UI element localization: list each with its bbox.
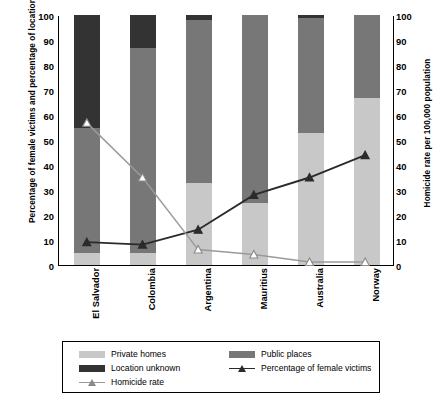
axis-tick-label: 100 (396, 11, 420, 22)
legend-row: Location unknown Percentage of female vi… (79, 361, 379, 375)
axis-tick-label: 90 (30, 36, 54, 47)
line-layer (59, 16, 393, 265)
axis-tick-label: 40 (396, 161, 420, 172)
data-point-marker[interactable] (361, 151, 369, 159)
axis-tick-label: 100 (30, 11, 54, 22)
axis-tick-label: 70 (30, 86, 54, 97)
chart-figure: Percentage of female victims and percent… (0, 0, 445, 411)
axis-tick-label: 40 (30, 161, 54, 172)
legend-swatch-public-places-icon (229, 351, 255, 358)
axis-tick-label: 0 (396, 261, 420, 272)
legend-label-female-victims: Percentage of female victims (261, 363, 371, 373)
axis-tick-label: 20 (396, 211, 420, 222)
chart-legend: Private homes Public places Location unk… (62, 341, 380, 393)
legend-label-location-unknown: Location unknown (111, 363, 180, 373)
axis-tick-label: 30 (396, 186, 420, 197)
data-line (87, 123, 365, 262)
legend-row: Private homes Public places (79, 347, 379, 361)
axis-tick-label: 90 (396, 36, 420, 47)
right-axis-ticks: 0102030405060708090100 (396, 16, 420, 266)
axis-tick-label: 80 (30, 61, 54, 72)
axis-tick-label: 60 (30, 111, 54, 122)
legend-label-private-homes: Private homes (111, 349, 166, 359)
x-axis-label: Argentina (203, 268, 214, 311)
axis-tick-label: 50 (396, 136, 420, 147)
data-line (87, 155, 365, 244)
plot-area (58, 16, 394, 266)
axis-tick-label: 30 (30, 186, 54, 197)
x-axis-category-labels: El SalvadorColombiaArgentinaMauritiusAus… (58, 268, 394, 332)
axis-tick-label: 20 (30, 211, 54, 222)
left-axis-ticks: 0102030405060708090100 (30, 16, 54, 266)
x-axis-label: El Salvador (91, 268, 102, 319)
axis-tick-label: 60 (396, 111, 420, 122)
x-axis-label: Norway (371, 268, 382, 302)
legend-swatch-homicide-rate-icon (79, 378, 105, 387)
axis-tick-label: 70 (396, 86, 420, 97)
legend-swatch-location-unknown-icon (79, 365, 105, 372)
axis-tick-label: 80 (396, 61, 420, 72)
legend-item-location-unknown: Location unknown (79, 361, 180, 375)
right-axis-title: Homicide rate per 100,000 population (423, 38, 433, 228)
x-axis-label: Australia (315, 268, 326, 308)
legend-label-public-places: Public places (261, 349, 312, 359)
x-axis-label: Mauritius (259, 268, 270, 309)
legend-swatch-private-homes-icon (79, 351, 105, 358)
legend-item-private-homes: Private homes (79, 347, 166, 361)
data-point-marker[interactable] (83, 119, 91, 127)
legend-row: Homicide rate (79, 375, 379, 389)
legend-item-female-victims: Percentage of female victims (229, 361, 371, 375)
legend-item-public-places: Public places (229, 347, 312, 361)
axis-tick-label: 50 (30, 136, 54, 147)
axis-tick-label: 10 (396, 236, 420, 247)
legend-swatch-female-victims-icon (229, 364, 255, 373)
data-point-marker[interactable] (194, 226, 202, 234)
legend-label-homicide-rate: Homicide rate (111, 377, 164, 387)
axis-tick-label: 10 (30, 236, 54, 247)
legend-item-homicide-rate: Homicide rate (79, 375, 164, 389)
axis-tick-label: 0 (30, 261, 54, 272)
x-axis-label: Colombia (147, 268, 158, 310)
